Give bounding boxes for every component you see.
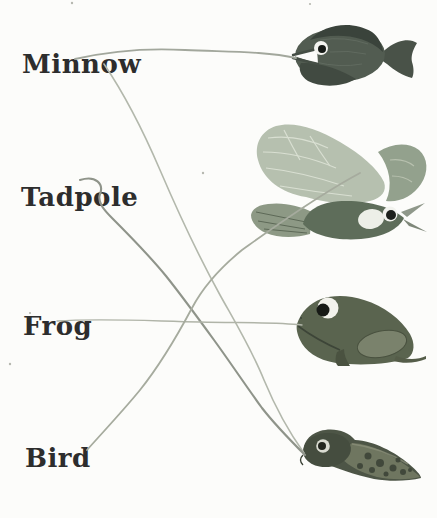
tadpole-tail-highlight bbox=[352, 444, 408, 464]
fish-pectoral-fin bbox=[300, 63, 356, 86]
bird-eye bbox=[386, 210, 396, 220]
tadpole-tail bbox=[342, 443, 420, 479]
bird-near-wing bbox=[257, 124, 385, 203]
bird-lower-beak bbox=[403, 219, 427, 232]
tadpole-eye-ring bbox=[316, 439, 330, 453]
bird-eye-ring bbox=[383, 207, 398, 222]
bird-body bbox=[303, 201, 404, 240]
fish-body-texture bbox=[315, 39, 368, 66]
fish-pupil bbox=[318, 45, 326, 53]
fish-lower-jaw bbox=[293, 58, 318, 64]
fish-eye bbox=[314, 41, 328, 55]
bird-near-wing-feathers bbox=[263, 130, 352, 196]
bird-tail-streaks bbox=[256, 212, 307, 233]
frog-picture[interactable] bbox=[297, 296, 426, 366]
bird-far-wing bbox=[378, 145, 426, 202]
tadpole-pupil bbox=[318, 442, 326, 450]
fish-body bbox=[294, 26, 386, 83]
connection-lines bbox=[57, 49, 360, 455]
tadpole-tail-spots bbox=[357, 453, 412, 477]
line-minnow-to-tadpole bbox=[104, 64, 304, 453]
fish-upper-jaw bbox=[293, 49, 317, 55]
word-minnow[interactable]: Minnow bbox=[22, 51, 141, 77]
word-frog[interactable]: Frog bbox=[23, 313, 92, 339]
fish-open-mouth bbox=[291, 49, 318, 64]
frog-eye bbox=[318, 298, 339, 319]
tadpole-head bbox=[301, 431, 352, 470]
bird-tail bbox=[251, 203, 312, 236]
worksheet-page: Minnow Tadpole Frog Bird bbox=[0, 0, 437, 518]
bird-far-wing-streaks bbox=[390, 160, 414, 182]
word-bird[interactable]: Bird bbox=[25, 445, 91, 471]
frog-mouth bbox=[298, 326, 340, 350]
bird-picture[interactable] bbox=[251, 124, 427, 239]
tadpole-mouth bbox=[301, 455, 304, 465]
tadpole-picture[interactable] bbox=[301, 429, 422, 480]
frog-front-leg bbox=[336, 349, 350, 366]
fish-dorsal-fin bbox=[310, 25, 383, 52]
fish-picture[interactable] bbox=[291, 25, 417, 86]
line-bird-to-bird bbox=[87, 173, 360, 450]
bird-upper-beak bbox=[401, 203, 425, 217]
tadpole-body bbox=[304, 429, 421, 480]
frog-body bbox=[297, 296, 414, 364]
frog-nostril bbox=[300, 317, 302, 319]
line-tadpole-to-tadpole bbox=[80, 179, 305, 455]
bird-cheek-patch bbox=[356, 207, 385, 231]
frog-hind-foot bbox=[394, 356, 426, 363]
frog-pupil bbox=[317, 304, 330, 317]
line-frog-to-frog bbox=[57, 320, 302, 325]
word-tadpole[interactable]: Tadpole bbox=[21, 184, 138, 210]
fish-tail-fin bbox=[376, 40, 417, 78]
frog-hind-leg bbox=[355, 326, 409, 362]
